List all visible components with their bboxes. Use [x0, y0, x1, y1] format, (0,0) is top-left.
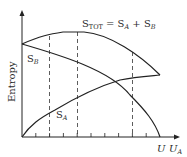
x-axis-label-u: U: [157, 143, 166, 154]
y-axis-arrow-icon: [20, 10, 25, 16]
entropy-diagram: Entropy STOT = SA + SB SB SA U UA: [0, 0, 187, 157]
curve-s-tot: [22, 32, 160, 75]
curve-s-a: [22, 75, 160, 137]
x-ticks: [36, 133, 146, 137]
s-a-label: SA: [56, 109, 68, 122]
x-axis-arrow-icon: [174, 135, 180, 140]
s-b-label: SB: [27, 53, 39, 66]
total-label: STOT = SA + SB: [82, 18, 156, 31]
x-axis-label-ua: UA: [169, 143, 182, 156]
y-axis-label: Entropy: [6, 61, 17, 102]
